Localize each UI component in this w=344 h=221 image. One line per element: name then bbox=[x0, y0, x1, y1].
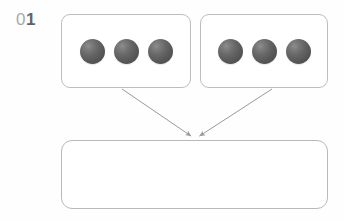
sphere-row-right bbox=[201, 15, 327, 87]
sphere-right-3[interactable] bbox=[286, 39, 311, 64]
step-number-value: 1 bbox=[26, 10, 36, 29]
step-number-leading-zero: 0 bbox=[16, 10, 26, 29]
target-box[interactable] bbox=[61, 140, 328, 209]
group-box-right[interactable] bbox=[200, 14, 328, 88]
diagram-canvas: 01 bbox=[0, 0, 344, 221]
step-number-label: 01 bbox=[16, 11, 36, 28]
sphere-right-2[interactable] bbox=[252, 39, 277, 64]
sphere-right-1[interactable] bbox=[218, 39, 243, 64]
group-box-left[interactable] bbox=[61, 14, 191, 88]
sphere-left-1[interactable] bbox=[80, 39, 105, 64]
sphere-left-2[interactable] bbox=[114, 39, 139, 64]
arrow-left-to-target bbox=[122, 89, 191, 136]
sphere-row-left bbox=[62, 15, 190, 87]
arrow-right-to-target bbox=[200, 89, 273, 136]
sphere-left-3[interactable] bbox=[148, 39, 173, 64]
